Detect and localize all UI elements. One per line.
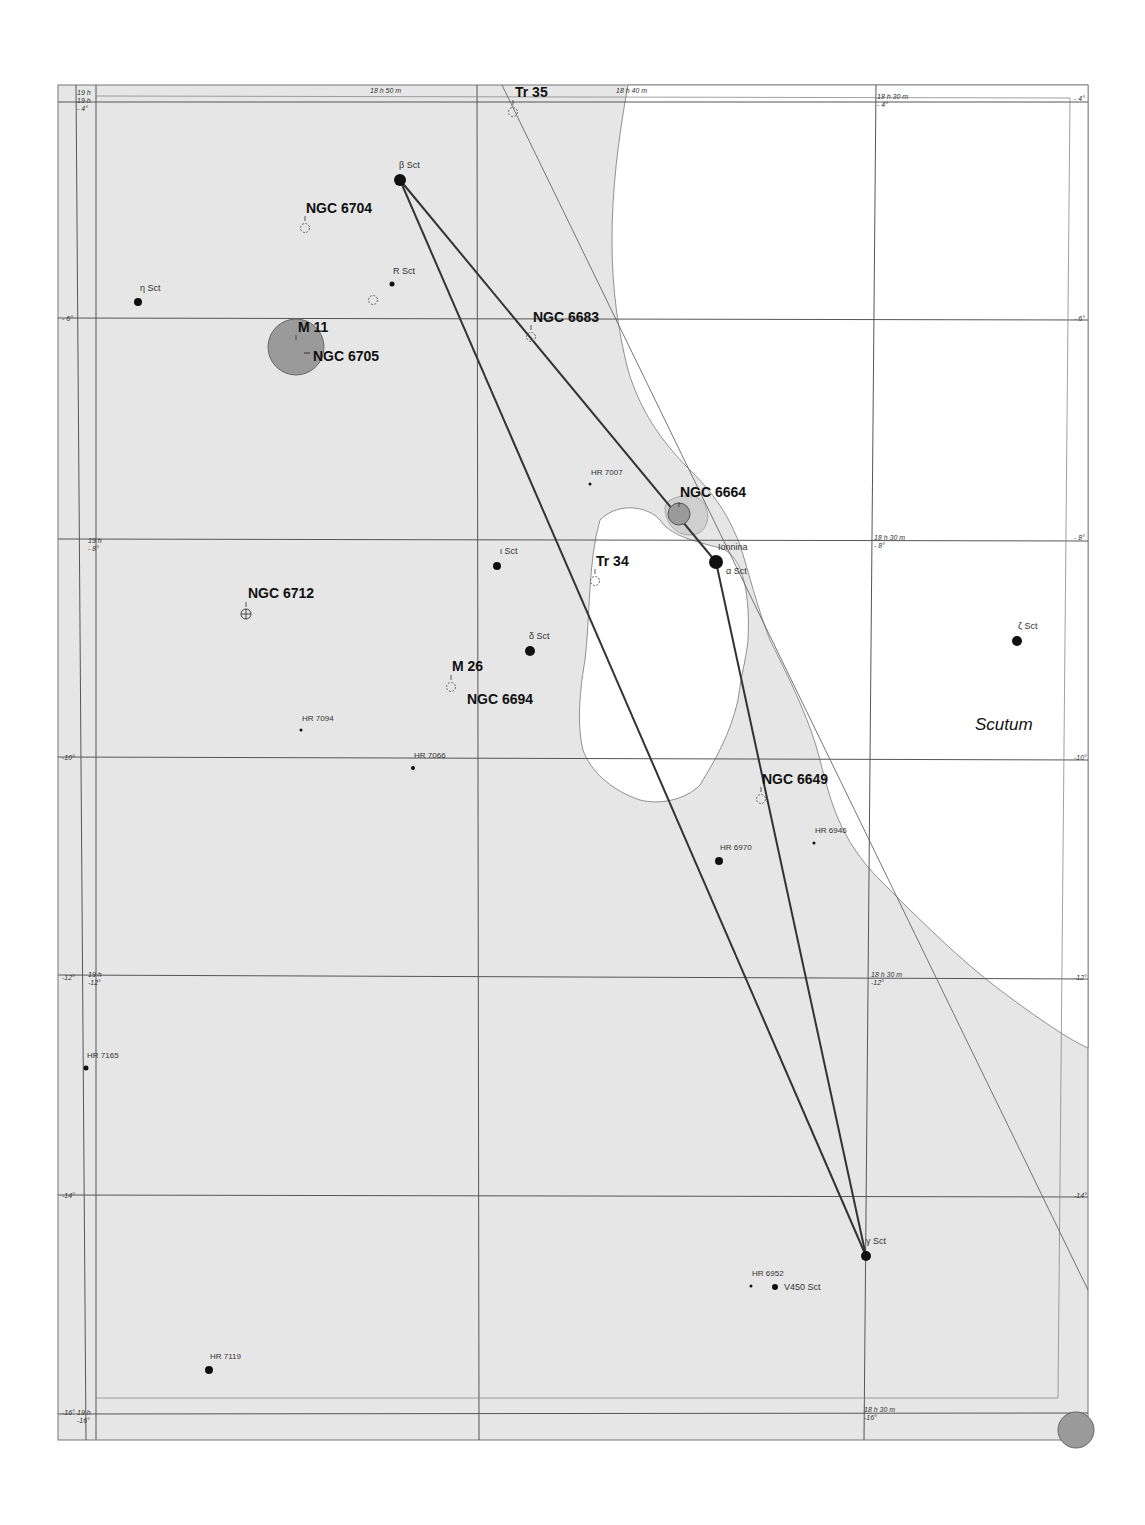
star-label: HR 6970 (720, 843, 752, 852)
star-dot-icon (394, 174, 406, 186)
dso-label: M 11 (298, 319, 329, 335)
dso-label: M 26 (452, 658, 483, 674)
star-dot-icon (715, 857, 723, 865)
dec-label: - 8° (1074, 534, 1085, 541)
corner-cluster-icon (1058, 1412, 1094, 1448)
dec-label: -14° (1074, 1192, 1087, 1199)
star-dot-icon (1012, 636, 1022, 646)
star-label: β Sct (399, 160, 420, 170)
dso-label: NGC 6649 (762, 771, 828, 787)
dec-label: - 8° (88, 545, 99, 552)
star-label: Ionnina (718, 542, 748, 552)
star-label: ζ Sct (1018, 621, 1038, 631)
star-dot-icon (525, 646, 535, 656)
ra-label: 19 h (77, 89, 91, 96)
star-label: V450 Sct (784, 1282, 821, 1292)
ra-label: 19 h (77, 97, 91, 104)
ra-label: 18 h 40 m (616, 87, 647, 94)
dso-label: NGC 6704 (306, 200, 372, 216)
star-label: HR 7094 (302, 714, 334, 723)
star-dot-icon (861, 1251, 871, 1261)
ra-label: 18 h 30 m (864, 1406, 895, 1413)
star-dot-icon (772, 1284, 778, 1290)
dec-label: -16° (864, 1414, 877, 1421)
ra-label: 18 h 30 m (871, 971, 902, 978)
star-label: η Sct (140, 283, 161, 293)
dec-label: - 4° (877, 101, 888, 108)
ra-label: 19 h (88, 537, 102, 544)
star-label: ι Sct (500, 546, 518, 556)
dec-label: -14° (62, 1192, 75, 1199)
constellation-label: Scutum (975, 715, 1033, 734)
star-label: α Sct (726, 566, 747, 576)
star-chart: 19 h19 h18 h 50 m18 h 40 m18 h 30 m19 h1… (0, 0, 1145, 1525)
dso-ngc-6694[interactable]: NGC 6694 (467, 691, 533, 707)
dec-label: - 6° (1074, 315, 1085, 322)
star-label: γ Sct (866, 1236, 887, 1246)
star-label: δ Sct (529, 631, 550, 641)
dso-label: NGC 6712 (248, 585, 314, 601)
ra-label: 18 h 30 m (877, 93, 908, 100)
star-dot-icon (493, 562, 501, 570)
dec-label: -12° (1074, 974, 1087, 981)
star-dot-icon (134, 298, 142, 306)
star-label: HR 6946 (815, 826, 847, 835)
dec-label: -10° (1074, 754, 1087, 761)
dec-label: -12° (871, 979, 884, 986)
dso-label: NGC 6664 (680, 484, 746, 500)
star-label: HR 7007 (591, 468, 623, 477)
dec-label: -12° (62, 974, 75, 981)
dso-label: Tr 34 (596, 553, 629, 569)
dec-label: - 4° (1074, 95, 1085, 102)
star-label: HR 6952 (752, 1269, 784, 1278)
star-dot-icon (205, 1366, 213, 1374)
star-label: HR 7119 (210, 1352, 242, 1361)
star-dot-icon (813, 842, 816, 845)
star-label: HR 7165 (87, 1051, 119, 1060)
dec-label: -16° (62, 1409, 75, 1416)
star-dot-icon (411, 766, 415, 770)
star-dot-icon (300, 729, 303, 732)
dec-label: - 6° (62, 315, 73, 322)
dec-label: -16° (77, 1417, 90, 1424)
star-dot-icon (709, 555, 723, 569)
ra-label: 18 h 50 m (370, 87, 401, 94)
star-label: HR 7066 (414, 751, 446, 760)
star-dot-icon (390, 282, 395, 287)
dso-ngc-6705[interactable]: NGC 6705 (313, 348, 379, 364)
dec-label: - 4° (77, 105, 88, 112)
ra-label: 19 h (88, 971, 102, 978)
star-dot-icon (750, 1285, 753, 1288)
ra-label: 18 h 30 m (874, 534, 905, 541)
star-dot-icon (84, 1066, 89, 1071)
ra-label: 19 h (77, 1409, 91, 1416)
dso-label: NGC 6683 (533, 309, 599, 325)
star-label: R Sct (393, 266, 416, 276)
dec-label: -12° (88, 979, 101, 986)
dso-label: NGC 6694 (467, 691, 533, 707)
star-dot-icon (589, 483, 592, 486)
dso-label: Tr 35 (515, 84, 548, 100)
dec-label: - 8° (874, 542, 885, 549)
dso-label: NGC 6705 (313, 348, 379, 364)
dec-label: -10° (62, 754, 75, 761)
star-sct[interactable]: α Sct (726, 566, 747, 576)
